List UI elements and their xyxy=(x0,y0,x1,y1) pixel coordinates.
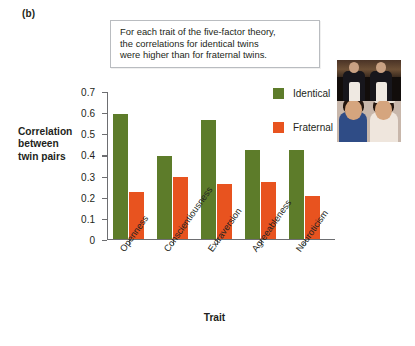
y-axis-tick: 0 xyxy=(102,240,107,241)
y-axis-tick-label: 0.1 xyxy=(81,213,95,224)
y-axis-tick: 0.5 xyxy=(102,134,107,135)
y-axis-tick-label: 0.5 xyxy=(81,129,95,140)
photo-person-head xyxy=(375,101,392,120)
y-axis-tick-label: 0.2 xyxy=(81,192,95,203)
callout-annotation: For each trait of the five-factor theory… xyxy=(110,20,320,68)
photo-person xyxy=(370,71,392,101)
fraternal-twin-women-photo xyxy=(337,101,401,142)
bar-identical xyxy=(201,120,216,238)
y-axis-tick: 0.1 xyxy=(102,219,107,220)
photo-person-head xyxy=(345,101,362,120)
bar-identical xyxy=(245,150,260,239)
y-axis-title: Correlation between twin pairs xyxy=(18,126,88,163)
photo-person xyxy=(370,112,398,142)
y-axis-tick: 0.4 xyxy=(102,155,107,156)
x-axis-title: Trait xyxy=(0,312,415,323)
photo-person-shirt xyxy=(376,82,387,101)
photo-person-shirt xyxy=(349,82,360,101)
photo-stack xyxy=(337,60,401,142)
y-axis-title-line: Correlation xyxy=(18,126,88,138)
y-axis-tick-label: 0.6 xyxy=(81,108,95,119)
callout-line: were higher than for fraternal twins. xyxy=(120,49,311,61)
y-axis-tick: 0.2 xyxy=(102,198,107,199)
callout-line: For each trait of the five-factor theory… xyxy=(120,26,311,38)
bar-identical xyxy=(157,156,172,238)
bar-identical xyxy=(289,150,304,239)
y-axis-title-line: between xyxy=(18,138,88,150)
y-axis-tick-label: 0.7 xyxy=(81,87,95,98)
y-axis-tick: 0.7 xyxy=(102,92,107,93)
y-axis-tick-label: 0.4 xyxy=(81,150,95,161)
plot-area: 0.70.60.50.40.30.20.10 OpennessConscient… xyxy=(107,92,332,240)
figure-panel-b: (b) For each trait of the five-factor th… xyxy=(0,0,415,346)
panel-label: (b) xyxy=(22,8,35,19)
identical-twin-men-photo xyxy=(337,60,401,101)
bar-identical xyxy=(113,114,128,239)
y-axis-tick: 0.3 xyxy=(102,177,107,178)
y-axis-tick: 0.6 xyxy=(102,113,107,114)
y-axis-tick-label: 0 xyxy=(89,235,95,246)
callout-line: the correlations for identical twins xyxy=(120,38,311,50)
photo-person-head xyxy=(376,62,386,73)
y-axis-title-line: twin pairs xyxy=(18,151,88,163)
photo-person xyxy=(339,112,367,142)
y-axis-tick-label: 0.3 xyxy=(81,171,95,182)
photo-person xyxy=(343,71,365,101)
photo-person-head xyxy=(349,62,359,73)
